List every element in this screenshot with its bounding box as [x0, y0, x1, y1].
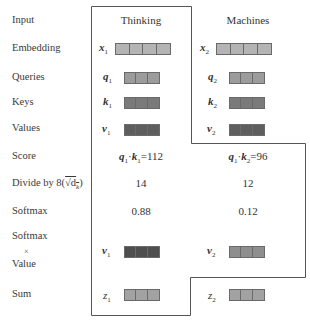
subscript: 1: [107, 251, 111, 259]
sqrt-dk: √dk: [65, 177, 79, 188]
vector-cell: [148, 73, 159, 83]
vector-cell: [148, 247, 159, 257]
vector-cell: [230, 290, 241, 300]
key-vector-2: [229, 97, 265, 109]
vector-cell: [230, 98, 241, 108]
embedding-label-2: x2: [200, 41, 209, 56]
row-label-softmax-value-bottom: Value: [12, 258, 36, 269]
vector-cell: [253, 73, 264, 83]
subscript: 1: [107, 129, 111, 137]
subscript: 2: [212, 251, 216, 259]
subscript: 2: [212, 296, 216, 304]
column-header-thinking: Thinking: [91, 14, 191, 26]
subscript: 1: [107, 296, 111, 304]
subscript: 1: [109, 77, 113, 85]
softmax-value-1: 0.88: [86, 205, 196, 217]
divided-score-2: 12: [193, 177, 303, 189]
vector-cell: [136, 125, 147, 135]
vector-cell: [157, 44, 171, 54]
score-value: =96: [250, 150, 267, 162]
vector-cell: [130, 44, 144, 54]
score-value: =112: [141, 150, 163, 162]
subscript: 1: [109, 102, 113, 110]
vector-cell: [136, 98, 147, 108]
vector-cell: [230, 125, 241, 135]
vector-cell: [125, 290, 136, 300]
vector-cell: [253, 98, 264, 108]
row-label-queries: Queries: [12, 71, 45, 82]
value-vector-2: [229, 124, 265, 136]
embedding-vector-1: [115, 43, 171, 55]
row-label-score: Score: [12, 150, 36, 161]
vector-cell: [253, 247, 264, 257]
vector-cell: [241, 98, 252, 108]
key-label-1: k1: [103, 95, 112, 110]
sum-vector-1: [124, 289, 160, 301]
vector-cell: [241, 247, 252, 257]
vector-cell: [253, 290, 264, 300]
vector-cell: [217, 44, 231, 54]
vector-cell: [136, 73, 147, 83]
sum-vector-2: [229, 289, 265, 301]
subscript: 1: [105, 48, 109, 56]
row-label-divide: Divide by 8(√dk): [12, 177, 83, 191]
divide-prefix: Divide by 8(: [12, 177, 65, 188]
vector-cell: [241, 125, 252, 135]
embedding-vector-2: [216, 43, 272, 55]
value-vector-1: [124, 124, 160, 136]
vector-cell: [136, 247, 147, 257]
vector-cell: [258, 44, 272, 54]
row-label-sum: Sum: [12, 288, 31, 299]
vector-cell: [148, 125, 159, 135]
score-formula-2: q1·k2=96: [193, 150, 303, 165]
subscript: 2: [214, 77, 218, 85]
sum-label-2: z2: [208, 289, 216, 304]
sqrt-symbol: √d: [65, 177, 76, 188]
value-label-2: v2: [207, 122, 215, 137]
vector-cell: [231, 44, 245, 54]
row-label-softmax: Softmax: [12, 205, 48, 216]
column-header-machines: Machines: [198, 14, 298, 26]
row-label-embedding: Embedding: [12, 42, 60, 53]
divide-suffix: ): [79, 177, 83, 188]
softmax-value-2: 0.12: [193, 205, 303, 217]
row-label-values: Values: [12, 122, 40, 133]
key-label-2: k2: [208, 95, 217, 110]
vector-cell: [148, 290, 159, 300]
weighted-value-vector-1: [124, 246, 160, 258]
vector-cell: [244, 44, 258, 54]
key-vector-1: [124, 97, 160, 109]
row-label-input: Input: [12, 14, 34, 25]
query-label-1: q1: [103, 70, 112, 85]
sum-label-1: z1: [103, 289, 111, 304]
vector-cell: [125, 98, 136, 108]
vector-cell: [241, 73, 252, 83]
vector-cell: [125, 247, 136, 257]
vector-cell: [241, 290, 252, 300]
vector-cell: [230, 73, 241, 83]
value-label-1: v1: [102, 122, 110, 137]
row-label-softmax-value-top: Softmax: [12, 230, 48, 241]
embedding-label-1: x1: [99, 41, 108, 56]
vector-cell: [136, 290, 147, 300]
subscript: 2: [206, 48, 210, 56]
vector-cell: [143, 44, 157, 54]
times-icon: ×: [24, 247, 29, 256]
row-label-keys: Keys: [12, 96, 34, 107]
query-vector-1: [124, 72, 160, 84]
vector-cell: [125, 73, 136, 83]
vector-cell: [253, 125, 264, 135]
vector-cell: [148, 98, 159, 108]
vector-cell: [230, 247, 241, 257]
vector-cell: [125, 125, 136, 135]
weighted-value-label-1: v1: [102, 244, 110, 259]
subscript: 2: [212, 129, 216, 137]
score-formula-1: q1·k1=112: [86, 150, 196, 165]
weighted-value-label-2: v2: [207, 244, 215, 259]
vector-cell: [116, 44, 130, 54]
query-label-2: q2: [208, 70, 217, 85]
subscript: 2: [214, 102, 218, 110]
divided-score-1: 14: [86, 177, 196, 189]
weighted-value-vector-2: [229, 246, 265, 258]
query-vector-2: [229, 72, 265, 84]
